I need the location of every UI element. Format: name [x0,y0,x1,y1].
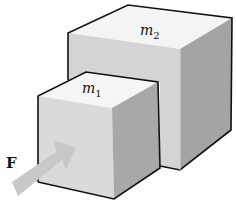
label-m2: m2 [140,22,160,41]
label-m1: m1 [82,80,102,99]
block-m1-front-face [38,96,114,199]
force-label: F [6,154,17,172]
two-block-diagram [0,0,236,213]
